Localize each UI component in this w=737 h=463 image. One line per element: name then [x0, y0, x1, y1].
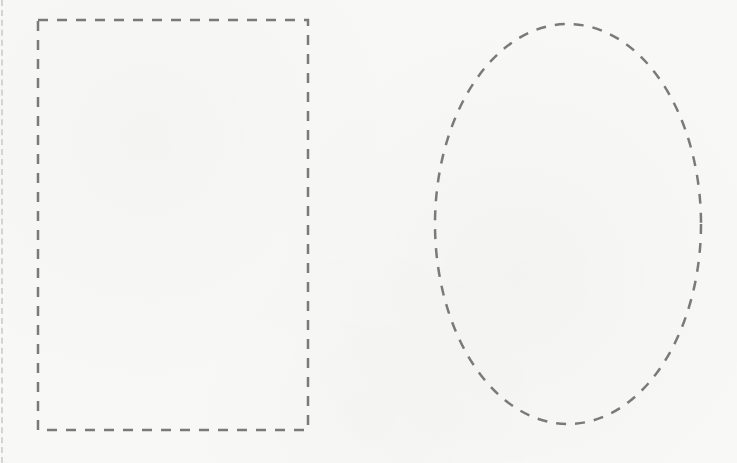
dashed-ellipse[interactable] — [435, 24, 701, 424]
shapes-canvas — [0, 0, 737, 463]
dashed-rectangle[interactable] — [38, 20, 308, 430]
